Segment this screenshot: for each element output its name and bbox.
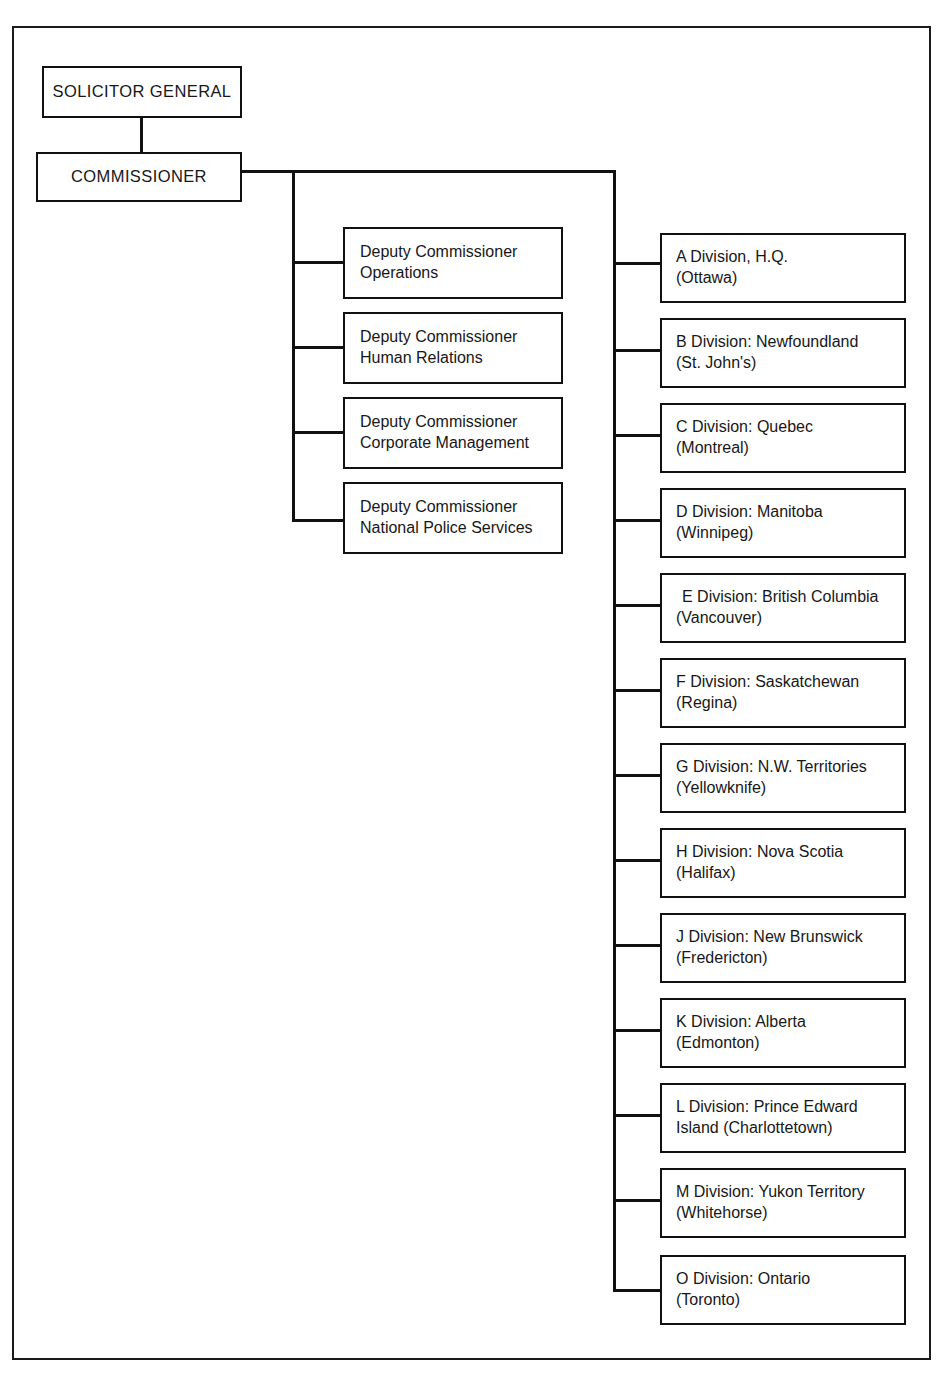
connector-deputy-stub (292, 261, 345, 264)
node-label-line1: J Division: New Brunswick (676, 927, 898, 948)
node-label-line2: (Montreal) (676, 438, 898, 459)
connector-division-trunk (613, 170, 616, 1292)
node-label-line2: (Regina) (676, 693, 898, 714)
connector-division-stub (613, 1114, 662, 1117)
connector-deputy-stub (292, 431, 345, 434)
connector-division-stub (613, 859, 662, 862)
connector-division-stub (613, 604, 662, 607)
node-division: A Division, H.Q. (Ottawa) (660, 233, 906, 303)
node-label: SOLICITOR GENERAL (53, 81, 232, 102)
node-label-line1: H Division: Nova Scotia (676, 842, 898, 863)
node-label-line1: Deputy Commissioner (360, 412, 561, 433)
node-label-line1: L Division: Prince Edward (676, 1097, 898, 1118)
org-chart-page: SOLICITOR GENERAL COMMISSIONER Deputy Co… (0, 0, 949, 1394)
node-label-line1: G Division: N.W. Territories (676, 757, 898, 778)
node-label-line1: Deputy Commissioner (360, 497, 561, 518)
node-label-line2: (Halifax) (676, 863, 898, 884)
node-solicitor-general: SOLICITOR GENERAL (42, 66, 242, 118)
node-division: M Division: Yukon Territory (Whitehorse) (660, 1168, 906, 1238)
node-division: L Division: Prince Edward Island (Charlo… (660, 1083, 906, 1153)
connector-division-stub (613, 434, 662, 437)
node-deputy-commissioner: Deputy Commissioner Human Relations (343, 312, 563, 384)
node-label-line1: K Division: Alberta (676, 1012, 898, 1033)
node-commissioner: COMMISSIONER (36, 152, 242, 202)
connector-division-stub (613, 944, 662, 947)
connector-division-stub (613, 774, 662, 777)
connector-deputy-stub (292, 519, 345, 522)
node-label-line2: National Police Services (360, 518, 561, 539)
connector-division-stub (613, 349, 662, 352)
node-deputy-commissioner: Deputy Commissioner Corporate Management (343, 397, 563, 469)
connector-division-stub (613, 689, 662, 692)
node-label-line1: O Division: Ontario (676, 1269, 898, 1290)
node-label-line2: (Winnipeg) (676, 523, 898, 544)
node-label-line1: B Division: Newfoundland (676, 332, 898, 353)
node-label-line2: Operations (360, 263, 561, 284)
node-label-line2: (St. John's) (676, 353, 898, 374)
node-deputy-commissioner: Deputy Commissioner Operations (343, 227, 563, 299)
connector-deputy-stub (292, 346, 345, 349)
node-division: E Division: British Columbia (Vancouver) (660, 573, 906, 643)
node-label-line1: C Division: Quebec (676, 417, 898, 438)
node-label-line2: (Yellowknife) (676, 778, 898, 799)
node-label-line1: A Division, H.Q. (676, 247, 898, 268)
node-label-line2: (Ottawa) (676, 268, 898, 289)
connector-division-stub (613, 519, 662, 522)
node-label-line2: Island (Charlottetown) (676, 1118, 898, 1139)
node-label-line1: Deputy Commissioner (360, 242, 561, 263)
node-label-line2: Human Relations (360, 348, 561, 369)
connector-solicitor-to-commissioner (140, 118, 143, 152)
node-label-line1: D Division: Manitoba (676, 502, 898, 523)
node-division: O Division: Ontario (Toronto) (660, 1255, 906, 1325)
node-division: K Division: Alberta (Edmonton) (660, 998, 906, 1068)
node-label: COMMISSIONER (71, 166, 207, 187)
node-label-line2: (Toronto) (676, 1290, 898, 1311)
node-label-line2: (Whitehorse) (676, 1203, 898, 1224)
connector-division-stub (613, 1199, 662, 1202)
node-label-line2: (Edmonton) (676, 1033, 898, 1054)
node-division: B Division: Newfoundland (St. John's) (660, 318, 906, 388)
connector-division-stub (613, 262, 662, 265)
connector-division-stub (613, 1289, 662, 1292)
node-label-line2: (Vancouver) (676, 608, 898, 629)
node-label-line1: F Division: Saskatchewan (676, 672, 898, 693)
connector-commissioner-bus (242, 170, 616, 173)
node-division: J Division: New Brunswick (Fredericton) (660, 913, 906, 983)
node-label-line1: E Division: British Columbia (676, 587, 898, 608)
node-division: D Division: Manitoba (Winnipeg) (660, 488, 906, 558)
node-label-line1: M Division: Yukon Territory (676, 1182, 898, 1203)
node-division: H Division: Nova Scotia (Halifax) (660, 828, 906, 898)
node-label-line2: Corporate Management (360, 433, 561, 454)
node-deputy-commissioner: Deputy Commissioner National Police Serv… (343, 482, 563, 554)
node-division: F Division: Saskatchewan (Regina) (660, 658, 906, 728)
node-label-line2: (Fredericton) (676, 948, 898, 969)
node-division: C Division: Quebec (Montreal) (660, 403, 906, 473)
node-division: G Division: N.W. Territories (Yellowknif… (660, 743, 906, 813)
connector-division-stub (613, 1029, 662, 1032)
node-label-line1: Deputy Commissioner (360, 327, 561, 348)
